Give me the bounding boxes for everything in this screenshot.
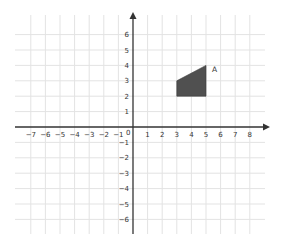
y-tick-label: 5 xyxy=(125,47,129,55)
y-tick-label: 2 xyxy=(125,93,129,101)
shape-label-a: A xyxy=(212,65,218,74)
x-tick-label: 2 xyxy=(160,131,164,139)
y-tick-label: −3 xyxy=(119,170,129,178)
x-tick-label: 5 xyxy=(204,131,208,139)
x-tick-label: 6 xyxy=(218,131,223,139)
x-tick-label: −4 xyxy=(69,131,80,139)
x-tick-label: 7 xyxy=(233,131,237,139)
y-axis-arrow-icon xyxy=(130,12,137,19)
x-tick-label: −6 xyxy=(40,131,51,139)
x-tick-label: −7 xyxy=(26,131,36,139)
coordinate-plane: −7−6−5−4−3−2−112345678 654321−1−2−3−4−5−… xyxy=(0,0,281,250)
grid-lines xyxy=(15,15,265,234)
axes xyxy=(15,12,270,234)
x-tick-label: −5 xyxy=(55,131,65,139)
x-tick-label: 3 xyxy=(175,131,179,139)
y-tick-label: −5 xyxy=(119,201,129,209)
y-tick-label: −4 xyxy=(119,185,130,193)
x-tick-label: −1 xyxy=(113,131,123,139)
x-tick-label: 4 xyxy=(189,131,194,139)
origin-label: 0 xyxy=(126,129,130,137)
y-tick-label: 1 xyxy=(125,108,129,116)
x-tick-label: 8 xyxy=(248,131,252,139)
y-tick-label: −1 xyxy=(119,139,129,147)
x-axis-arrow-icon xyxy=(263,124,270,131)
x-tick-label: −3 xyxy=(84,131,94,139)
x-tick-label: −2 xyxy=(99,131,109,139)
y-tick-label: 4 xyxy=(125,62,130,70)
y-tick-label: 3 xyxy=(125,77,129,85)
x-tick-labels: −7−6−5−4−3−2−112345678 xyxy=(26,131,252,139)
y-tick-label: 6 xyxy=(125,31,130,39)
y-tick-label: −6 xyxy=(119,216,130,224)
y-tick-label: −2 xyxy=(119,154,129,162)
x-tick-label: 1 xyxy=(145,131,149,139)
